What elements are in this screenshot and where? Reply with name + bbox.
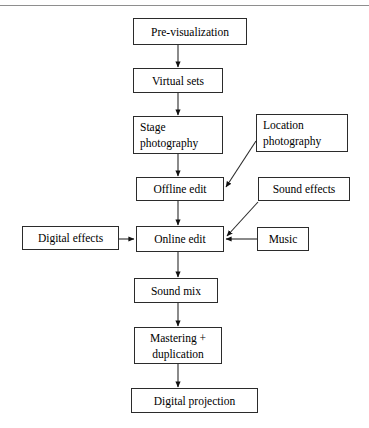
node-sound-effects: Sound effects [258,177,350,201]
edge-location-to-offline [226,141,256,187]
node-label: Sound mix [151,283,201,299]
node-label: Sound effects [273,181,336,197]
node-location-photography: Locationphotography [256,114,348,152]
node-label: photography [140,135,198,151]
node-label: Stage [140,119,166,135]
node-online-edit: Online edit [136,226,224,252]
edge-soundeffects-to-online [227,202,258,236]
node-label: Online edit [154,231,205,247]
node-sound-mix: Sound mix [134,278,218,303]
node-label: Location [263,117,304,133]
node-label: Virtual sets [152,73,204,89]
node-music: Music [257,227,309,251]
top-horizontal-rule [0,5,369,6]
node-label: Digital projection [154,393,235,409]
node-digital-effects: Digital effects [22,226,119,250]
node-label: Digital effects [38,230,103,246]
node-stage-photography: Stagephotography [133,116,223,154]
node-pre-visualization: Pre-visualization [133,18,247,45]
node-label: Offline edit [153,181,206,197]
flowchart-canvas: Pre-visualizationVirtual setsStagephotog… [0,0,369,428]
node-offline-edit: Offline edit [136,177,224,201]
node-digital-projection: Digital projection [131,388,258,413]
node-virtual-sets: Virtual sets [133,68,223,93]
node-mastering-duplication: Mastering +duplication [134,327,222,364]
node-label: Mastering + [150,330,206,346]
node-label: photography [263,133,321,149]
node-label: duplication [152,346,204,362]
node-label: Music [269,231,298,247]
node-label: Pre-visualization [151,24,229,40]
